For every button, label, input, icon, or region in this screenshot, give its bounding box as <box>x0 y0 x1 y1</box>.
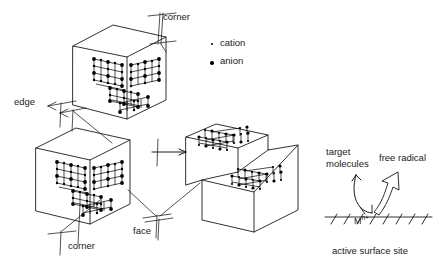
label-free-radical: free radical <box>379 152 426 163</box>
transition-arrow <box>152 139 186 166</box>
terrace-lattice-lower <box>230 164 282 190</box>
label-active-surface-site: active surface site <box>332 245 408 256</box>
label-corner-top: corner <box>163 11 190 22</box>
lattice-cluster-top <box>92 57 161 114</box>
metal-ion-charge: n+ <box>362 214 369 221</box>
legend-cation-label: cation <box>220 37 245 48</box>
legend-anion-label: anion <box>220 55 243 66</box>
label-face: face <box>133 225 151 236</box>
target-line-2: molecules <box>326 158 369 169</box>
surface-site <box>325 172 432 224</box>
metal-ion-symbol: M <box>354 216 362 226</box>
figure-canvas: .ln{fill:none;stroke:#1a1a1a;stroke-widt… <box>0 0 445 270</box>
label-corner-bottom: corner <box>68 240 95 251</box>
label-edge: edge <box>14 96 35 107</box>
target-line-1: target <box>326 146 350 157</box>
label-target-molecules: target molecules <box>326 146 369 169</box>
legend-anion-dot <box>210 61 214 65</box>
label-metal-ion: Mn+ <box>354 212 369 227</box>
